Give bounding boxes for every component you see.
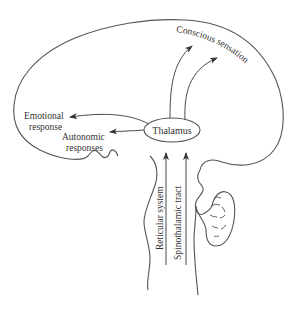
spinothalamic-tract-label: Spinothalamic tract	[173, 186, 183, 260]
cerebellum-outline	[194, 192, 235, 295]
thalamus-label: Thalamus	[152, 125, 192, 136]
reticular-system-label: Reticular system	[155, 186, 165, 250]
arrow-thalamus-to-emotional-response	[70, 114, 149, 124]
emotional-response-label-line1: Emotional	[24, 111, 64, 121]
arrow-thalamus-to-conscious-sensation-2	[185, 58, 217, 120]
conscious-sensation-label: Conscious sensation	[176, 24, 251, 65]
thalamus-pathway-diagram: Thalamus Conscious sensation Emotional r…	[0, 0, 294, 309]
autonomic-responses-label-line1: Autonomic	[62, 132, 105, 142]
autonomic-responses-label-line2: responses	[66, 143, 103, 153]
brainstem-right-outline	[195, 170, 212, 214]
emotional-response-label-line2: response	[29, 122, 62, 132]
arrow-thalamus-to-autonomic-responses	[110, 130, 144, 132]
arrow-thalamus-to-conscious-sensation-1	[170, 46, 192, 118]
brain-outline	[14, 20, 284, 170]
